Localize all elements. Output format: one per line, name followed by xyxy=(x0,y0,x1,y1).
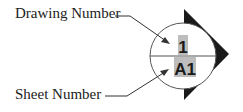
section-marker-diagram: 1 A1 xyxy=(0,0,243,112)
drawing-value: 1 xyxy=(178,38,187,57)
sheet-value: A1 xyxy=(174,60,196,79)
